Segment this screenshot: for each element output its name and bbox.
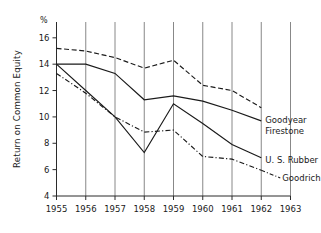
y-tick-label-12: 12 (39, 86, 50, 96)
series-label-goodyear: Goodyear (265, 115, 307, 125)
y-tick-label-14: 14 (39, 59, 50, 69)
y-axis-title: Return on Common Equity (12, 50, 22, 168)
x-tick-label-1963: 1963 (280, 204, 302, 214)
y-tick-label-6: 6 (44, 165, 49, 175)
y-tick-label-8: 8 (44, 138, 49, 148)
x-tick-label-1961: 1961 (221, 204, 243, 214)
percent-unit-marker: % (40, 16, 48, 25)
x-tick-label-1958: 1958 (133, 204, 155, 214)
x-tick-label-1957: 1957 (104, 204, 126, 214)
series-label-goodrich: Goodrich (282, 173, 320, 183)
y-tick-label-10: 10 (39, 112, 50, 122)
return-on-common-equity-line-chart: 46810121416 1955195619571958195919601961… (0, 0, 321, 233)
x-tick-label-1960: 1960 (192, 204, 214, 214)
series-label-u-s-rubber: U. S. Rubber (265, 155, 318, 165)
x-tick-label-1955: 1955 (46, 204, 68, 214)
x-tick-label-1956: 1956 (75, 204, 97, 214)
chart-container: 46810121416 1955195619571958195919601961… (0, 0, 321, 233)
y-tick-label-16: 16 (39, 33, 50, 43)
x-tick-label-1959: 1959 (163, 204, 185, 214)
x-tick-label-1962: 1962 (250, 204, 272, 214)
y-tick-label-4: 4 (44, 191, 49, 201)
series-label-firestone: Firestone (265, 126, 304, 136)
